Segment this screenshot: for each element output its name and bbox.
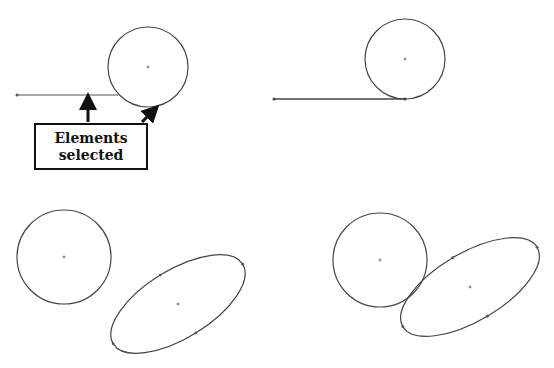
- panel-top-left: [16, 27, 189, 122]
- circle-center-marker: [379, 259, 382, 262]
- elements-selected-callout: Elements selected: [34, 123, 148, 170]
- ellipse-element[interactable]: [95, 235, 260, 368]
- line-endpoint[interactable]: [16, 94, 19, 97]
- diagram-canvas: [0, 0, 554, 368]
- circle-center-marker: [147, 66, 150, 69]
- callout-line-2: selected: [59, 147, 124, 164]
- callout-line-1: Elements: [54, 130, 127, 147]
- arrow-to-circle: [142, 111, 153, 122]
- ellipse-center-marker: [177, 303, 180, 306]
- line-endpoint[interactable]: [273, 98, 276, 101]
- panel-bottom-right: [333, 213, 554, 356]
- panel-bottom-left: [17, 210, 261, 368]
- circle-center-marker: [63, 256, 66, 259]
- circle-center-marker: [404, 58, 407, 61]
- panel-top-right: [273, 19, 446, 101]
- ellipse-center-marker: [469, 286, 472, 289]
